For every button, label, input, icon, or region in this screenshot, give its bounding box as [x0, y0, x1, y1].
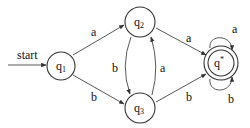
edge-q3-qstar: b: [156, 74, 206, 104]
edge-label-q1-q2: a: [91, 25, 97, 39]
edge-label-q3-qstar: b: [186, 90, 192, 104]
state-q2: q2: [125, 7, 155, 37]
edge-q2-q3: b: [112, 37, 131, 94]
dfa-diagram: start a b b a a b a b q1 q2: [0, 0, 250, 128]
loop-label-bottom: b: [228, 92, 234, 106]
start-label: start: [17, 48, 38, 62]
edge-q1-q3: b: [73, 75, 124, 104]
edge-label-q3-q2: a: [160, 61, 166, 75]
edge-q3-q2: a: [151, 37, 166, 95]
edge-label-q2-qstar: a: [186, 31, 192, 45]
edge-q2-qstar: a: [156, 28, 206, 55]
edge-q1-q2: a: [73, 25, 124, 55]
state-qstar-accepting: q*: [204, 46, 238, 80]
edge-label-q2-q3: b: [112, 61, 118, 75]
loop-qstar-bottom: b: [210, 77, 234, 106]
state-q1: q1: [47, 52, 75, 80]
start-arrow: start: [8, 48, 46, 65]
edge-label-q1-q3: b: [91, 90, 97, 104]
loop-label-top: a: [232, 22, 238, 36]
state-q3: q3: [125, 93, 155, 123]
